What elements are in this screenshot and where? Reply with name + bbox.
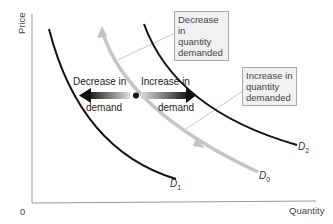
decrease-demand-label-1: Decrease in [73,76,126,87]
label-d0: D0 [259,170,270,183]
x-axis-label: Quantity [289,205,324,216]
label-d2: D2 [298,141,309,154]
label-d1: D1 [170,178,181,191]
increase-demand-label-2: demand [158,102,194,113]
arrow-right-head-icon [186,88,196,103]
x-axis [32,201,316,203]
y-axis-label: Price [16,12,27,34]
increase-demand-label-1: Increase in [141,76,190,87]
arrow-left-head-icon [79,88,91,103]
arrow-right-body [141,92,189,99]
arrow-up-d0-icon [97,26,107,38]
callout-decrease-quantity-demanded: Decrease in quantity demanded [174,11,229,61]
callout-leader-decrease [118,33,175,60]
origin-label: 0 [20,206,25,217]
callout-increase-quantity-demanded: Increase in quantity demanded [242,67,297,106]
equilibrium-point [133,93,139,99]
decrease-demand-label-2: demand [86,102,122,113]
arrow-left-body [88,92,130,99]
